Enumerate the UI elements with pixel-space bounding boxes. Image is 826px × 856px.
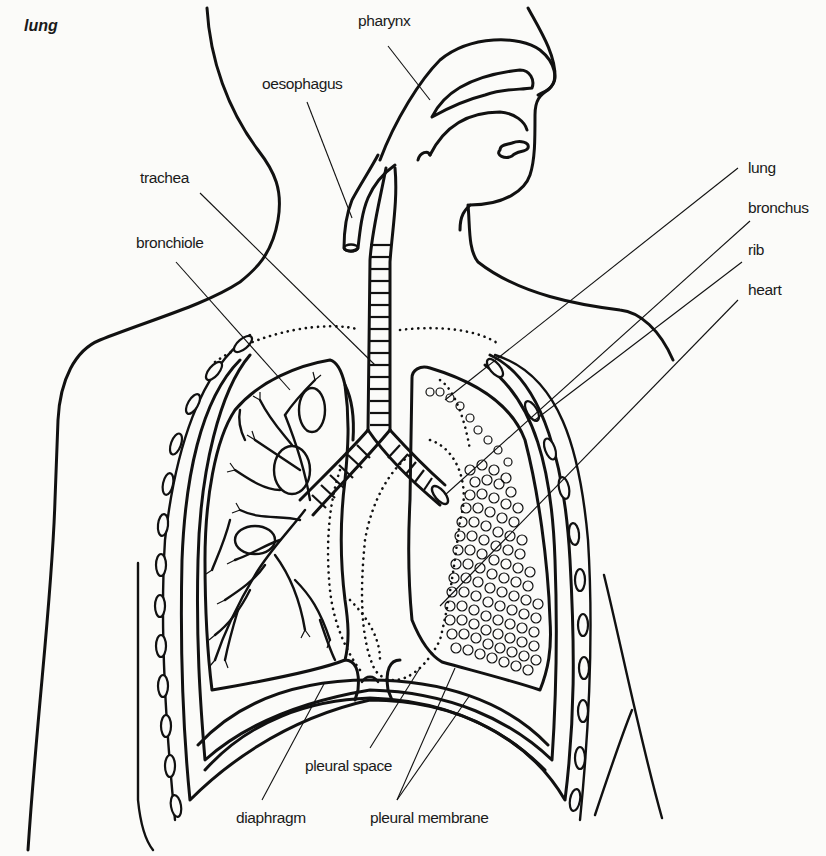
- alveoli-texture: [426, 388, 543, 675]
- label-pleural-membrane: pleural membrane: [370, 810, 489, 826]
- lung-diagram-page: lung: [0, 0, 826, 856]
- label-pharynx: pharynx: [358, 13, 410, 29]
- body-outline: [28, 8, 673, 850]
- label-oesophagus: oesophagus: [262, 76, 342, 92]
- label-lung: lung: [748, 160, 776, 176]
- label-pleural-space: pleural space: [305, 758, 392, 774]
- label-heart: heart: [748, 282, 781, 298]
- respiratory-system-illustration: [0, 0, 826, 856]
- trachea: [368, 168, 396, 430]
- ribs-right: [484, 356, 589, 811]
- label-trachea: trachea: [140, 170, 189, 186]
- label-diaphragm: diaphragm: [236, 810, 306, 826]
- left-lung: [205, 360, 353, 690]
- label-bronchus: bronchus: [748, 200, 809, 216]
- label-rib: rib: [748, 242, 764, 258]
- leader-lines: [176, 46, 750, 800]
- pharynx-region: [380, 40, 555, 230]
- oesophagus: [344, 155, 395, 252]
- label-bronchiole: bronchiole: [136, 235, 204, 251]
- bronchi: [300, 430, 451, 515]
